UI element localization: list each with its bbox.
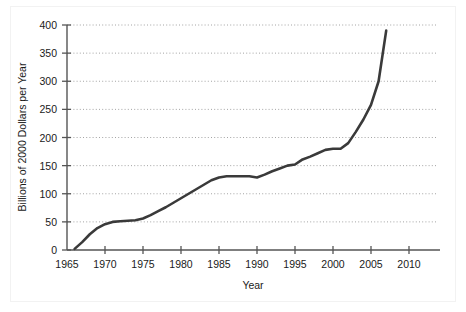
y-axis-tick-label: 400 (39, 19, 57, 31)
x-axis-tick-label: 1975 (131, 258, 155, 270)
y-axis-tick-label: 300 (39, 75, 57, 87)
x-axis-tick-label: 1980 (169, 258, 193, 270)
x-axis-title: Year (242, 279, 264, 291)
x-axis-tick-label: 1970 (93, 258, 117, 270)
x-axis-tick-label: 2000 (321, 258, 345, 270)
y-axis-tick-label: 150 (39, 160, 57, 172)
x-axis-tick-label: 2010 (397, 258, 421, 270)
x-axis-tick-label: 1995 (283, 258, 307, 270)
line-chart: 050100150200250300350400 196519701975198… (0, 0, 466, 312)
x-axis-tick-label: 1965 (55, 258, 79, 270)
y-axis-title: Billions of 2000 Dollars per Year (16, 62, 28, 211)
y-axis-tick-label: 50 (45, 216, 57, 228)
data-series-line (75, 31, 387, 249)
y-axis-tick-label: 100 (39, 188, 57, 200)
y-axis-tick-label: 0 (51, 244, 57, 256)
y-axis-tick-label: 200 (39, 132, 57, 144)
chart-figure: 050100150200250300350400 196519701975198… (0, 0, 466, 312)
y-axis-tick-label: 250 (39, 103, 57, 115)
x-axis-tick-label: 1990 (245, 258, 269, 270)
y-axis-tick-labels: 050100150200250300350400 (39, 19, 57, 256)
x-axis-tick-label: 2005 (359, 258, 383, 270)
x-axis-tick-labels: 1965197019751980198519901995200020052010 (55, 258, 421, 270)
y-axis-tick-label: 350 (39, 47, 57, 59)
x-axis-tick-label: 1985 (207, 258, 231, 270)
